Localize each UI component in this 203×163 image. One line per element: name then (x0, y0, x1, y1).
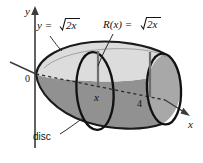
y-axis-label: y (24, 5, 30, 17)
disc-callout-label: disc (33, 131, 51, 142)
curve-equation-prefix: y = (36, 19, 52, 31)
origin-label: 0 (25, 73, 30, 84)
x-tick-label-4: 4 (137, 98, 142, 109)
x-position-label: x (93, 91, 99, 103)
solid-of-revolution-diagram: y x 0 4 x y = 2x R(x) = 2x disc (0, 0, 203, 163)
radius-equation-label: R(x) = 2x (102, 18, 161, 32)
curve-equation-radicand: 2x (66, 19, 77, 31)
x-axis-label: x (187, 118, 193, 130)
figure-container: y x 0 4 x y = 2x R(x) = 2x disc (0, 0, 203, 163)
radius-equation-prefix: R(x) = (102, 18, 132, 31)
radius-equation-radicand: 2x (147, 18, 158, 30)
